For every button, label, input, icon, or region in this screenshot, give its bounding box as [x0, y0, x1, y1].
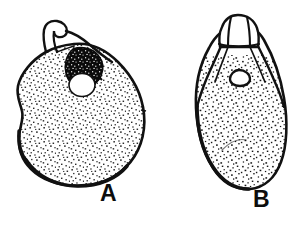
panel-label-b: B	[253, 188, 270, 211]
specimen-a-neck-tip	[44, 21, 67, 37]
figure-canvas: A B	[0, 0, 294, 232]
specimen-figure-svg	[0, 0, 294, 232]
specimen-b-group	[190, 15, 290, 195]
specimen-b-micropyle-opening	[230, 70, 250, 86]
panel-label-a: A	[100, 182, 117, 205]
specimen-a-aperture-opening	[69, 74, 95, 97]
specimen-a-group	[10, 21, 155, 195]
specimen-a-edge-tick	[141, 110, 146, 111]
specimen-a-neck-left-wall	[44, 30, 46, 52]
specimen-b-crown-cap	[219, 15, 258, 47]
